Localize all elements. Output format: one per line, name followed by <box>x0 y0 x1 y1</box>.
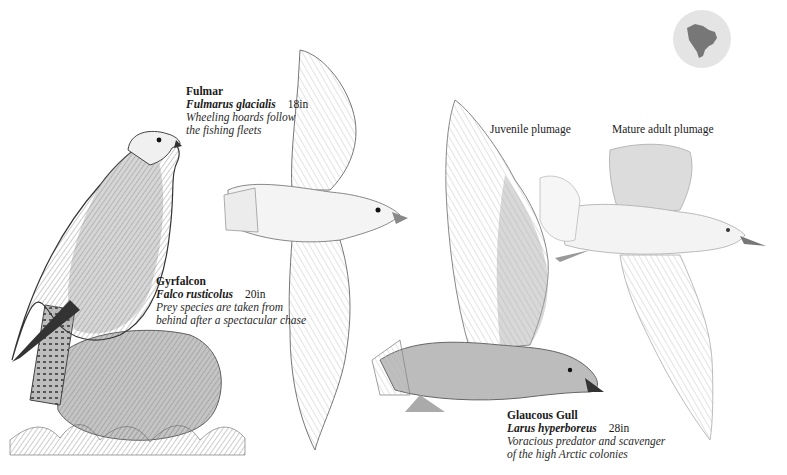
note-line: Wheeling hoards follow <box>186 111 308 124</box>
juvenile-plumage-label: Juvenile plumage <box>490 123 571 135</box>
note-line: Voracious predator and scavenger <box>507 435 665 448</box>
species-name: Gyrfalcon <box>156 275 306 288</box>
gyrfalcon-caption: Gyrfalcon Falco rusticolus20in Prey spec… <box>156 275 306 327</box>
note-line: of the high Arctic colonies <box>507 448 665 461</box>
scientific-line: Fulmarus glacialis18in <box>186 98 308 110</box>
size: 20in <box>245 288 265 300</box>
size: 18in <box>288 98 308 110</box>
note-line: the fishing fleets <box>186 124 308 137</box>
species-name: Glaucous Gull <box>507 409 665 422</box>
scientific-name: Larus hyperboreus <box>507 422 597 434</box>
north-america-globe-icon <box>673 10 731 68</box>
scientific-line: Larus hyperboreus28in <box>507 422 629 434</box>
bird-illustrations <box>0 0 787 475</box>
fulmar-caption: Fulmar Fulmarus glacialis18in Wheeling h… <box>186 85 308 137</box>
glaucous-gull-adult-illustration <box>540 144 766 440</box>
species-name: Fulmar <box>186 85 308 98</box>
glaucous-gull-caption: Glaucous Gull Larus hyperboreus28in Vora… <box>507 409 665 461</box>
note-line: behind after a spectacular chase <box>156 314 306 327</box>
scientific-name: Fulmarus glacialis <box>186 98 276 110</box>
field-guide-page: Fulmar Fulmarus glacialis18in Wheeling h… <box>0 0 787 475</box>
size: 28in <box>609 422 629 434</box>
note-line: Prey species are taken from <box>156 301 306 314</box>
adult-plumage-label: Mature adult plumage <box>612 123 714 135</box>
scientific-line: Falco rusticolus20in <box>156 288 265 300</box>
scientific-name: Falco rusticolus <box>156 288 233 300</box>
